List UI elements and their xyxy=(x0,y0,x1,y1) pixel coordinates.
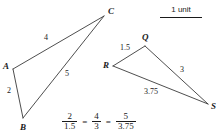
fraction-1-denominator: 1.5 xyxy=(62,121,77,131)
fraction-2-denominator: 3 xyxy=(92,121,101,131)
fraction-1: 2 1.5 xyxy=(62,112,77,132)
side-label-AB: 2 xyxy=(7,87,11,95)
side-label-BC: 5 xyxy=(65,70,69,78)
vertex-label-B: B xyxy=(20,123,26,132)
similar-triangles-figure: A B C 4 2 5 Q R S 1.5 3 3.75 1 unit 2 1.… xyxy=(0,0,223,139)
vertex-label-R: R xyxy=(103,61,109,70)
proportion-equation: 2 1.5 = 4 3 = 5 3.75 xyxy=(62,112,136,132)
fraction-3-numerator: 5 xyxy=(122,112,131,121)
side-label-QS: 3 xyxy=(180,66,184,74)
triangle-qrs-shape xyxy=(113,46,208,104)
triangle-abc-shape xyxy=(13,16,104,118)
segment-R-S xyxy=(113,66,208,104)
vertex-label-Q: Q xyxy=(142,33,149,42)
equals-sign-1: = xyxy=(81,117,88,127)
scale-bar-icon xyxy=(160,17,202,18)
segment-B-C xyxy=(23,16,104,118)
fraction-3: 5 3.75 xyxy=(116,112,136,132)
vertex-label-A: A xyxy=(3,62,9,71)
equals-sign-2: = xyxy=(105,117,112,127)
side-label-RS: 3.75 xyxy=(144,88,158,96)
segment-A-B xyxy=(13,69,23,118)
scale-key: 1 unit xyxy=(160,6,202,18)
segment-A-C xyxy=(13,16,104,69)
side-label-AC: 4 xyxy=(44,34,48,42)
side-label-RQ: 1.5 xyxy=(120,44,130,52)
fraction-3-denominator: 3.75 xyxy=(116,121,136,131)
vertex-label-S: S xyxy=(211,102,216,111)
vertex-label-C: C xyxy=(108,7,114,16)
scale-key-label: 1 unit xyxy=(160,6,202,15)
fraction-2-numerator: 4 xyxy=(92,112,101,121)
fraction-1-numerator: 2 xyxy=(65,112,74,121)
fraction-2: 4 3 xyxy=(92,112,101,132)
